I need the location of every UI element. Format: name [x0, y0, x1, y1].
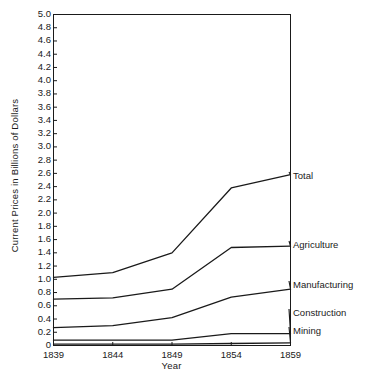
- y-tick-label: 2.2: [21, 194, 51, 204]
- series-label-total: Total: [293, 170, 313, 181]
- y-tick-label: 4.8: [21, 22, 51, 32]
- x-tick-label: 1844: [90, 349, 136, 360]
- x-tick-label: 1854: [208, 349, 254, 360]
- y-tick-label: 0.8: [21, 287, 51, 297]
- y-tick-label: 3.2: [21, 128, 51, 138]
- y-tick-label: 0.4: [21, 314, 51, 324]
- y-tick-label: 4.2: [21, 62, 51, 72]
- y-tick-label: 3.6: [21, 102, 51, 112]
- series-label-mining: Mining: [293, 325, 321, 336]
- series-line-construction: [54, 334, 291, 341]
- series-label-agriculture: Agriculture: [293, 239, 338, 250]
- series-line-agriculture: [54, 246, 291, 299]
- plot-area: [0, 0, 383, 377]
- y-tick-label: 1.8: [21, 221, 51, 231]
- y-tick-label: 1.2: [21, 261, 51, 271]
- y-tick-label: 3.4: [21, 115, 51, 125]
- y-tick-label: 2.6: [21, 168, 51, 178]
- x-tick-label: 1839: [31, 349, 77, 360]
- plot-frame: [54, 15, 291, 346]
- x-axis-title: Year: [53, 360, 290, 371]
- y-tick-label: 1.0: [21, 274, 51, 284]
- y-tick-label: 4.4: [21, 49, 51, 59]
- series-label-manufacturing: Manufacturing: [293, 279, 353, 290]
- series-label-construction: Construction: [293, 307, 346, 318]
- line-chart: Current Prices in Billions of Dollars 5.…: [0, 0, 383, 377]
- y-tick-label: 3.0: [21, 141, 51, 151]
- y-tick-label: 1.6: [21, 234, 51, 244]
- y-axis-tick-labels: 5.04.84.64.44.24.03.83.63.43.23.02.82.62…: [18, 0, 51, 377]
- y-tick-label: 2.4: [21, 181, 51, 191]
- y-tick-label: 5.0: [21, 9, 51, 19]
- series-line-total: [54, 175, 291, 278]
- y-tick-label: 3.8: [21, 88, 51, 98]
- y-tick-label: 2.0: [21, 208, 51, 218]
- y-tick-label: 2.8: [21, 155, 51, 165]
- series-line-manufacturing: [54, 289, 291, 327]
- x-tick-label: 1849: [149, 349, 195, 360]
- y-tick-label: 0.6: [21, 300, 51, 310]
- x-tick-label: 1859: [268, 349, 314, 360]
- y-tick-label: 0.2: [21, 327, 51, 337]
- y-tick-label: 4.0: [21, 75, 51, 85]
- y-tick-label: 4.6: [21, 35, 51, 45]
- y-tick-label: 1.4: [21, 247, 51, 257]
